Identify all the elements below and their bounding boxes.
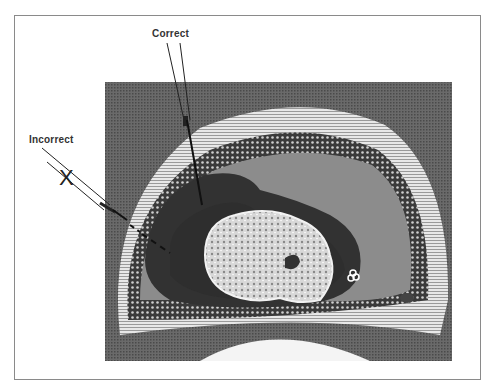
incorrect-label: Incorrect — [29, 134, 74, 145]
ct-scan-diagram — [0, 0, 492, 390]
incorrect-x-mark: X — [59, 165, 74, 191]
correct-label: Correct — [152, 28, 189, 39]
